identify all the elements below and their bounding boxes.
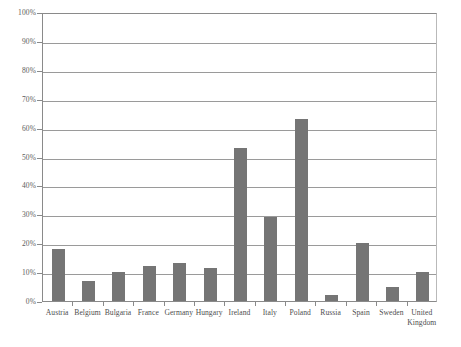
- y-axis-tick-label: 60%: [4, 125, 36, 133]
- y-axis-tick-label: 80%: [4, 67, 36, 75]
- x-axis-tick-label: Belgium: [72, 308, 102, 318]
- x-axis-tick-label: Germany: [164, 308, 194, 318]
- gridline: [43, 72, 436, 73]
- gridline: [43, 130, 436, 131]
- x-axis-tick: [72, 302, 73, 306]
- x-axis-tick-label: Spain: [346, 308, 376, 318]
- x-axis-tick: [315, 302, 316, 306]
- y-axis-tick-label: 90%: [4, 38, 36, 46]
- x-axis-tick: [164, 302, 165, 306]
- bar: [52, 249, 65, 301]
- bar: [234, 148, 247, 301]
- bar: [173, 263, 186, 301]
- y-axis-tick-label: 40%: [4, 182, 36, 190]
- y-axis-tick-label: 70%: [4, 96, 36, 104]
- bar: [204, 268, 217, 301]
- x-axis-tick-label: Austria: [42, 308, 72, 318]
- y-axis-tick-label: 10%: [4, 269, 36, 277]
- bar: [325, 295, 338, 301]
- bar: [416, 272, 429, 301]
- x-axis-tick-label: Poland: [285, 308, 315, 318]
- x-axis-tick: [376, 302, 377, 306]
- bar: [112, 272, 125, 301]
- y-axis-tick-label: 30%: [4, 211, 36, 219]
- x-axis-tick-label: Hungary: [194, 308, 224, 318]
- gridline: [43, 43, 436, 44]
- x-axis-tick: [407, 302, 408, 306]
- y-axis-tick-label: 50%: [4, 154, 36, 162]
- x-axis-tick-label: France: [133, 308, 163, 318]
- plot-area: [42, 13, 437, 302]
- x-axis-tick-label: Bulgaria: [103, 308, 133, 318]
- x-axis-tick: [224, 302, 225, 306]
- x-axis-tick-label: United Kingdom: [407, 308, 437, 327]
- x-axis-tick-label: Ireland: [224, 308, 254, 318]
- bar: [356, 243, 369, 301]
- y-axis-tick-label: 100%: [4, 9, 36, 17]
- x-axis-tick: [285, 302, 286, 306]
- x-axis-tick-label: Russia: [315, 308, 345, 318]
- y-axis-tick-label: 0%: [4, 298, 36, 306]
- bar-chart-figure: 100%90%80%70%60%50%40%30%20%10%0% Austri…: [0, 0, 461, 347]
- bar: [82, 281, 95, 301]
- bar: [386, 287, 399, 301]
- bar: [295, 119, 308, 301]
- y-axis-tick: [37, 302, 42, 303]
- y-axis-tick-label: 20%: [4, 240, 36, 248]
- x-axis-tick: [346, 302, 347, 306]
- bar: [264, 217, 277, 301]
- x-axis-tick: [255, 302, 256, 306]
- x-axis-tick-label: Sweden: [376, 308, 406, 318]
- x-axis-tick-label: Italy: [255, 308, 285, 318]
- gridline: [43, 101, 436, 102]
- x-axis-tick: [103, 302, 104, 306]
- x-axis-tick: [133, 302, 134, 306]
- bar: [143, 266, 156, 301]
- x-axis-tick: [194, 302, 195, 306]
